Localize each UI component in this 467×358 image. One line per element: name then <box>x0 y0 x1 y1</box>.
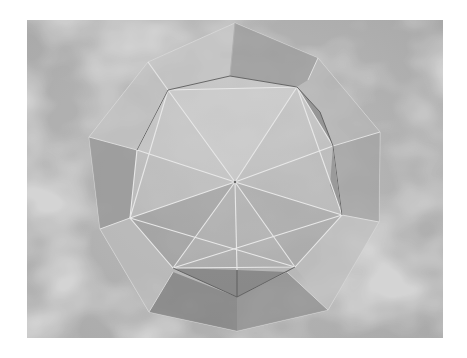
polyhedron-render <box>0 0 467 358</box>
center-vertex <box>234 181 237 184</box>
